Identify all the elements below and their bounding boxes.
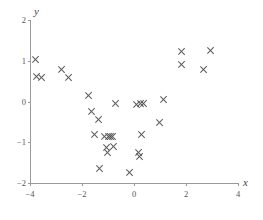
plot-data-area [30,20,238,183]
data-point-marker [206,46,215,55]
x-axis-title: x [243,177,248,188]
data-point-marker [87,107,96,116]
data-point-marker [108,132,117,141]
x-tick-mark [82,183,83,186]
data-point-marker [133,100,142,109]
y-tick-label: −1 [17,138,26,147]
y-axis-title: y [34,6,39,17]
data-point-marker [91,130,100,139]
data-point-marker [156,118,165,127]
data-point-marker [159,95,168,104]
data-point-marker [139,99,148,108]
data-point-marker [31,55,40,64]
data-point-marker [109,142,118,151]
scatter-plot-figure: −4−2024 −2−1012 x y [0,0,263,220]
data-point-marker [57,65,66,74]
data-point-marker [104,148,113,157]
y-tick-mark [28,183,31,184]
data-point-marker [178,60,187,69]
data-point-marker [199,65,208,74]
data-point-marker [33,72,42,81]
x-tick-label: 4 [236,190,240,199]
data-point-marker [134,148,143,157]
x-tick-mark [238,183,239,186]
x-tick-label: −2 [77,190,86,199]
y-tick-label: −2 [17,179,26,188]
data-point-marker [85,91,94,100]
y-tick-label: 2 [22,16,26,25]
data-point-marker [95,164,104,173]
data-point-marker [112,99,121,108]
data-point-marker [178,47,187,56]
data-point-marker [37,73,46,82]
y-tick-label: 0 [22,97,26,106]
x-tick-mark [134,183,135,186]
data-point-marker [126,168,135,177]
data-point-marker [102,143,111,152]
x-tick-mark [186,183,187,186]
data-point-marker [137,99,146,108]
data-point-marker [138,130,147,139]
x-tick-label: −4 [25,190,34,199]
data-point-marker [100,132,109,141]
data-point-marker [107,132,116,141]
data-point-marker [135,152,144,161]
y-tick-label: 1 [22,57,26,66]
x-tick-label: 2 [184,190,188,199]
data-point-marker [105,132,114,141]
data-point-marker [94,115,103,124]
data-point-marker [65,73,74,82]
x-tick-label: 0 [132,190,136,199]
